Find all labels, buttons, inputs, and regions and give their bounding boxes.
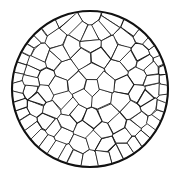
- grain-structure-figure: [0, 0, 180, 177]
- figure-root: Polycrystalline grain structure Circular…: [0, 0, 180, 177]
